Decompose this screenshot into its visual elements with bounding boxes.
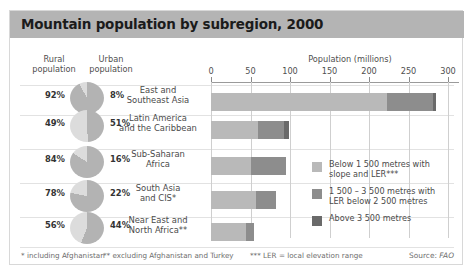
legend-swatch — [312, 189, 322, 199]
infographic-figure: Mountain population by subregion, 2000 R… — [9, 10, 463, 265]
rural-percentage: 92% — [35, 90, 65, 100]
legend-label: Below 1 500 metres withslope and LER*** — [329, 160, 461, 179]
region-label: South Asiaand CIS* — [114, 183, 202, 203]
region-label: Sub-SaharanAfrica — [114, 149, 202, 169]
chart-legend: Below 1 500 metres withslope and LER***1… — [312, 161, 462, 233]
rural-percentage: 84% — [35, 154, 65, 164]
bar-segment[interactable] — [211, 93, 387, 111]
tick-mark — [448, 77, 449, 82]
region-label: Near East andNorth Africa** — [114, 215, 202, 235]
rural-percentage: 49% — [35, 118, 65, 128]
bar-row[interactable] — [211, 121, 289, 139]
region-label-line1: East and — [114, 85, 202, 95]
axis-tick-label: 200 — [361, 66, 377, 76]
bar-segment[interactable] — [246, 223, 254, 241]
bar-segment[interactable] — [211, 121, 258, 139]
pie-chart — [70, 180, 104, 212]
bar-segment[interactable] — [387, 93, 433, 111]
tick-mark — [409, 77, 410, 82]
axis-tick-label: 100 — [282, 66, 298, 76]
urban-population-header: Urban population — [88, 55, 134, 74]
region-label-line1: Near East and — [114, 215, 202, 225]
rural-header-line2: population — [31, 65, 77, 75]
bar-segment[interactable] — [251, 157, 287, 175]
pie-chart — [70, 146, 104, 178]
axis-line — [211, 82, 459, 83]
page-title: Mountain population by subregion, 2000 — [21, 16, 323, 32]
tick-mark — [369, 77, 370, 82]
footnote-bar: * including Afghanistan ** excluding Afg… — [10, 249, 464, 265]
bar-segment[interactable] — [258, 121, 283, 139]
legend-item[interactable]: 1 500 – 3 500 metres withLER below 2 500… — [312, 188, 462, 209]
legend-swatch — [312, 216, 322, 226]
bar-row[interactable] — [211, 191, 276, 209]
region-label-line1: South Asia — [114, 183, 202, 193]
region-label-line2: Southeast Asia — [114, 95, 202, 105]
region-label-line2: Africa — [114, 159, 202, 169]
rural-percentage: 56% — [35, 220, 65, 230]
region-label: Latin Americaand the Caribbean — [114, 113, 202, 133]
bar-segment[interactable] — [211, 223, 246, 241]
bar-segment[interactable] — [284, 121, 290, 139]
tick-mark — [211, 77, 212, 82]
population-axis-title: Population (millions) — [290, 55, 410, 65]
source-value: FAO — [439, 251, 454, 260]
axis-tick-label: 250 — [401, 66, 417, 76]
footnote-2: ** excluding Afghanistan and Turkey — [103, 251, 234, 260]
legend-item[interactable]: Above 3 500 metres — [312, 215, 462, 227]
tick-mark — [251, 77, 252, 82]
bar-segment[interactable] — [211, 157, 251, 175]
axis-tick-label: 0 — [208, 66, 213, 76]
rural-population-header: Rural population — [31, 55, 77, 74]
rural-percentage: 78% — [35, 188, 65, 198]
bar-row[interactable] — [211, 93, 436, 111]
legend-label-line2: LER below 2 500 metres — [329, 197, 461, 207]
legend-swatch — [312, 162, 322, 172]
legend-label: Above 3 500 metres — [329, 214, 461, 224]
pie-chart — [70, 212, 104, 244]
bar-segment[interactable] — [433, 93, 436, 111]
source-credit: Source: FAO — [409, 251, 454, 260]
footnote-1: * including Afghanistan — [21, 251, 105, 260]
bar-row[interactable] — [211, 157, 286, 175]
region-label-line2: North Africa** — [114, 225, 202, 235]
pie-chart — [70, 110, 104, 142]
legend-label-line2: slope and LER*** — [329, 170, 461, 180]
region-label-line2: and CIS* — [114, 193, 202, 203]
axis-tick-label: 150 — [322, 66, 338, 76]
legend-label-line1: Above 3 500 metres — [329, 214, 461, 224]
axis-tick-label: 50 — [245, 66, 255, 76]
bar-segment[interactable] — [211, 191, 256, 209]
legend-item[interactable]: Below 1 500 metres withslope and LER*** — [312, 161, 462, 182]
row-separator — [20, 247, 454, 248]
region-label-line1: Latin America — [114, 113, 202, 123]
source-label: Source: — [409, 251, 437, 260]
urban-header-line2: population — [88, 65, 134, 75]
region-label-line1: Sub-Saharan — [114, 149, 202, 159]
bar-segment[interactable] — [256, 191, 276, 209]
region-label-line2: and the Caribbean — [114, 123, 202, 133]
title-bar: Mountain population by subregion, 2000 — [10, 11, 464, 38]
tick-mark — [290, 77, 291, 82]
axis-tick-label: 300 — [440, 66, 456, 76]
footnote-3: *** LER = local elevation range — [250, 251, 363, 260]
tick-mark — [330, 77, 331, 82]
legend-label: 1 500 – 3 500 metres withLER below 2 500… — [329, 187, 461, 206]
region-label: East andSoutheast Asia — [114, 85, 202, 105]
bar-row[interactable] — [211, 223, 254, 241]
